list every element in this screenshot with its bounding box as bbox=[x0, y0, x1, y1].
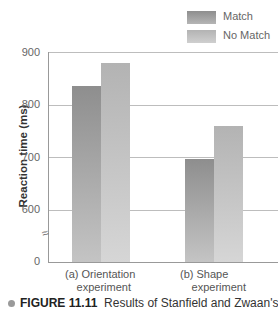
category-label-orientation-line1: (a) Orientation bbox=[65, 268, 131, 281]
y-tick-800: 800 bbox=[10, 98, 40, 110]
category-label-orientation: (a) Orientation experiment bbox=[65, 268, 131, 294]
bar-orientation-match bbox=[72, 86, 101, 262]
legend-swatch-no-match bbox=[187, 30, 216, 43]
y-tick-600: 600 bbox=[10, 203, 40, 215]
caption-text: Results of Stanfield and Zwaan's bbox=[104, 296, 278, 309]
y-tick-700: 700 bbox=[10, 151, 40, 163]
category-label-shape-line2: experiment bbox=[178, 281, 246, 294]
figure-caption: FIGURE 11.11 Results of Stanfield and Zw… bbox=[8, 296, 278, 309]
legend-label-match: Match bbox=[223, 10, 253, 22]
x-axis bbox=[48, 262, 278, 263]
legend-label-no-match: No Match bbox=[223, 29, 270, 41]
bar-orientation-no-match bbox=[101, 63, 130, 262]
bar-shape-match bbox=[185, 159, 214, 262]
y-tick-900: 900 bbox=[10, 46, 40, 58]
axis-break-icon: ≈ bbox=[40, 225, 51, 240]
bullet-icon bbox=[8, 300, 15, 307]
category-label-shape-line1: (b) Shape bbox=[178, 268, 246, 281]
category-label-shape: (b) Shape experiment bbox=[178, 268, 246, 294]
y-tick-0: 0 bbox=[10, 255, 40, 267]
figure-number: FIGURE 11.11 bbox=[20, 296, 97, 309]
gridline-900 bbox=[49, 52, 278, 53]
bar-shape-no-match bbox=[214, 126, 243, 262]
legend-swatch-match bbox=[187, 11, 216, 24]
category-label-orientation-line2: experiment bbox=[65, 281, 131, 294]
